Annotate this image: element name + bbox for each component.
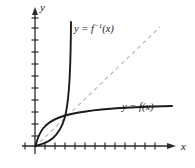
- curve-label-f-inverse-suffix: (x): [102, 23, 114, 35]
- x-axis-arrowhead: [167, 143, 176, 149]
- y-axis-arrowhead: [32, 7, 38, 15]
- y-axis-label: y: [39, 1, 45, 13]
- inverse-function-graph-figure: y x y = f−1(x) y = f(x): [0, 0, 195, 168]
- curve-label-f-inverse-exponent: −1: [94, 22, 102, 30]
- identity-line-dashed: [40, 27, 160, 142]
- curve-label-f: y = f(x): [121, 101, 154, 113]
- curve-f-inverse-of-x: [36, 22, 72, 146]
- curve-label-f-inverse: y = f−1(x): [73, 22, 114, 35]
- curve-label-f-inverse-prefix: y = f: [73, 23, 96, 34]
- plot-canvas: y x y = f−1(x) y = f(x): [0, 0, 195, 168]
- x-axis-label: x: [180, 140, 186, 152]
